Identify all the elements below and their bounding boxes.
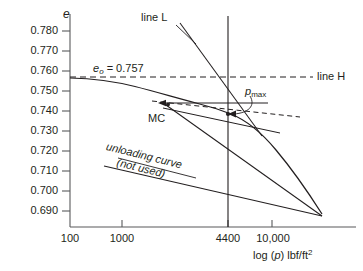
line-l-label: line L <box>141 12 167 23</box>
x-axis-title-suffix: ) lbf/ft <box>281 249 309 261</box>
e0-value: = 0.757 <box>104 62 144 74</box>
x-tick-label-1000: 1000 <box>99 233 145 244</box>
x-axis-title: log (p) lbf/ft2 <box>253 249 313 261</box>
line-h-label: line H <box>317 71 345 82</box>
bisector-line <box>163 108 280 133</box>
x-axis-title-exponent: 2 <box>308 248 312 257</box>
x-tick-marks <box>122 220 272 227</box>
y-tick-marks <box>62 31 70 211</box>
virgin-line-extension <box>166 105 322 216</box>
mc-label: MC <box>148 113 165 124</box>
mc-point-marker <box>166 103 170 107</box>
y-tick-label-0760: 0.760 <box>12 65 58 76</box>
e0-annotation: eo = 0.757 <box>93 63 144 76</box>
axis-lines <box>70 14 356 227</box>
mc-arrowhead <box>158 100 166 106</box>
y-tick-label-0750: 0.750 <box>12 85 58 96</box>
line-l-leader <box>176 25 196 44</box>
x-axis-title-prefix: log ( <box>253 249 274 261</box>
chart-figure: e 0.780 0.770 0.760 0.750 0.740 0.730 0.… <box>0 0 363 271</box>
x-tick-label-100: 100 <box>50 233 90 244</box>
y-tick-label-0690: 0.690 <box>12 205 58 216</box>
y-tick-label-0780: 0.780 <box>12 25 58 36</box>
y-tick-label-0730: 0.730 <box>12 125 58 136</box>
y-tick-label-0740: 0.740 <box>12 105 58 116</box>
y-tick-label-0710: 0.710 <box>12 165 58 176</box>
pmax-label: pmax <box>245 86 266 99</box>
pmax-subscript: max <box>251 90 266 99</box>
y-tick-label-0770: 0.770 <box>12 45 58 56</box>
y-axis-title: e <box>63 8 70 20</box>
unloading-curve-line <box>104 166 322 216</box>
y-tick-label-0700: 0.700 <box>12 185 58 196</box>
x-tick-label-10000: 10,000 <box>245 233 301 244</box>
y-tick-label-0720: 0.720 <box>12 145 58 156</box>
pmax-point-marker <box>226 112 230 116</box>
